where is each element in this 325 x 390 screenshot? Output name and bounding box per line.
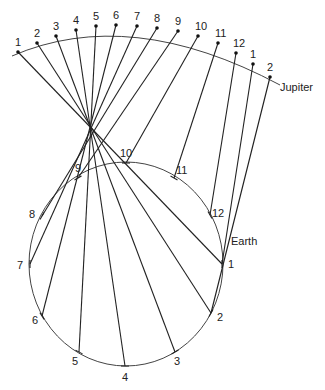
earth-position-label: 7 <box>17 259 23 271</box>
jupiter-position-dot <box>196 34 200 38</box>
jupiter-position-label: 7 <box>134 10 140 22</box>
jupiter-position-label: 8 <box>154 12 160 24</box>
sightline-11 <box>174 43 218 178</box>
jupiter-position-dot <box>155 26 159 30</box>
earth-position-label: 1 <box>228 258 234 270</box>
jupiter-position-dot <box>16 50 20 54</box>
jupiter-position-dot <box>114 23 118 27</box>
jupiter-position-dot <box>94 24 98 28</box>
jupiter-position-label: 10 <box>195 20 207 32</box>
jupiter-label: Jupiter <box>280 81 313 93</box>
earth-position-labels: 123456789101112 <box>17 147 234 383</box>
jupiter-position-dot <box>234 51 238 55</box>
earth-position-label: 6 <box>32 314 38 326</box>
earth-position-label: 10 <box>120 147 132 159</box>
sightline-12 <box>210 53 236 215</box>
jupiter-position-label: 6 <box>113 9 119 21</box>
earth-position-ticks <box>30 163 222 366</box>
sightline-14 <box>211 77 270 313</box>
jupiter-position-label: 5 <box>93 10 99 22</box>
jupiter-position-label: 1 <box>250 48 256 60</box>
earth-label: Earth <box>231 235 257 247</box>
jupiter-position-dot <box>268 75 272 79</box>
earth-position-label: 3 <box>174 355 180 367</box>
earth-position-label: 8 <box>29 208 35 220</box>
jupiter-position-label: 2 <box>34 27 40 39</box>
earth-position-tick <box>40 313 44 320</box>
earth-position-label: 2 <box>217 311 223 323</box>
jupiter-position-dot <box>74 28 78 32</box>
jupiter-position-label: 4 <box>73 14 79 26</box>
sightlines-group <box>18 25 270 366</box>
jupiter-position-label: 12 <box>233 37 245 49</box>
earth-position-label: 5 <box>72 355 78 367</box>
earth-orbit-circle <box>29 162 223 366</box>
earth-position-label: 11 <box>176 164 187 176</box>
jupiter-position-dot <box>35 41 39 45</box>
jupiter-position-label: 9 <box>175 15 181 27</box>
sightline-5 <box>79 26 96 352</box>
jupiter-position-dot <box>216 41 220 45</box>
earth-position-label: 9 <box>75 162 81 174</box>
jupiter-position-label: 2 <box>267 61 273 73</box>
jupiter-position-dot <box>135 24 139 28</box>
jupiter-position-dot <box>176 29 180 33</box>
jupiter-position-label: 1 <box>15 36 21 48</box>
sightline-4 <box>76 30 125 366</box>
jupiter-position-label: 11 <box>215 27 226 39</box>
earth-position-label: 4 <box>122 371 128 383</box>
jupiter-position-dot <box>251 62 255 66</box>
jupiter-earth-sightline-diagram: 12345678910111212 123456789101112 Jupite… <box>0 0 325 390</box>
earth-position-label: 12 <box>212 207 224 219</box>
jupiter-position-dot <box>54 34 58 38</box>
sightline-7 <box>30 26 137 264</box>
jupiter-position-label: 3 <box>53 20 59 32</box>
sightline-2 <box>37 43 211 313</box>
